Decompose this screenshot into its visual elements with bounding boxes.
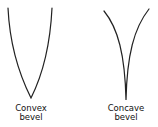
convex-label-line2: bevel	[19, 112, 42, 122]
convex-bevel-shape	[8, 8, 52, 98]
bevel-diagram: Convex bevel Concave bevel	[0, 0, 158, 127]
concave-bevel-shape	[104, 9, 149, 100]
concave-label-line2: bevel	[114, 112, 137, 122]
